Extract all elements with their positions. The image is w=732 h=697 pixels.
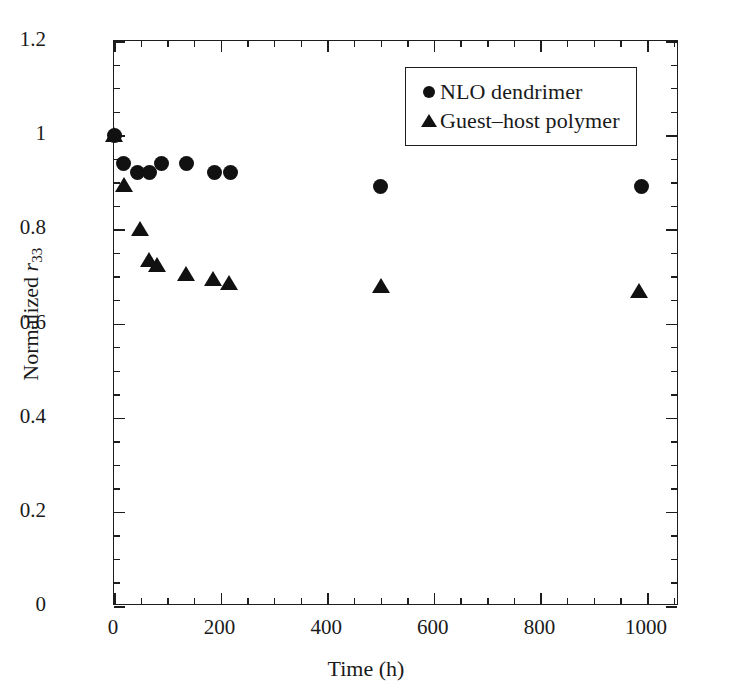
data-point-circle [223, 165, 238, 180]
x-axis-tick-label: 200 [204, 617, 236, 638]
data-point-circle [154, 156, 169, 171]
data-point-triangle [131, 221, 149, 236]
x-axis-tick-label: 800 [524, 617, 556, 638]
legend: NLO dendrimer Guest–host polymer [405, 67, 637, 146]
data-point-triangle [115, 177, 133, 192]
data-point-triangle [372, 278, 390, 293]
data-point-triangle [630, 283, 648, 298]
data-point-circle [634, 179, 649, 194]
data-point-triangle [177, 266, 195, 281]
x-axis-title: Time (h) [0, 656, 732, 682]
data-point-triangle [204, 271, 222, 286]
data-point-circle [373, 179, 388, 194]
x-axis-tick-label: 0 [108, 617, 119, 638]
y-axis-tick [114, 606, 125, 608]
legend-entry-guest-host-polymer: Guest–host polymer [418, 106, 620, 135]
data-point-triangle [105, 127, 123, 142]
y-axis-title-subscript: 33 [29, 247, 45, 262]
legend-label: Guest–host polymer [440, 108, 620, 134]
x-axis-tick-label: 1000 [625, 617, 667, 638]
y-axis-tick-label: 0.4 [0, 406, 46, 427]
x-axis-tick-label: 400 [310, 617, 342, 638]
y-axis-tick-label: 0.6 [0, 312, 46, 333]
y-axis-tick-label: 0.8 [0, 217, 46, 238]
y-axis-tick-label: 0 [0, 594, 46, 615]
y-axis-title-symbol: r [18, 263, 43, 272]
data-point-circle [207, 165, 222, 180]
y-axis-tick-label: 1.2 [0, 29, 46, 50]
scatter-plot-figure: Normalized r33 Time (h) 00.20.40.60.811.… [0, 0, 732, 697]
x-axis-tick-label: 600 [417, 617, 449, 638]
legend-label: NLO dendrimer [440, 79, 582, 105]
y-axis-tick-label: 0.2 [0, 500, 46, 521]
y-axis-tick-label: 1 [0, 123, 46, 144]
triangle-marker-icon [418, 114, 440, 127]
data-point-triangle [148, 257, 166, 272]
data-point-circle [179, 156, 194, 171]
circle-marker-icon [418, 86, 440, 98]
data-point-circle [116, 156, 131, 171]
data-point-triangle [220, 275, 238, 290]
y-axis-tick-right [666, 606, 677, 608]
legend-entry-nlo-dendrimer: NLO dendrimer [418, 77, 620, 106]
